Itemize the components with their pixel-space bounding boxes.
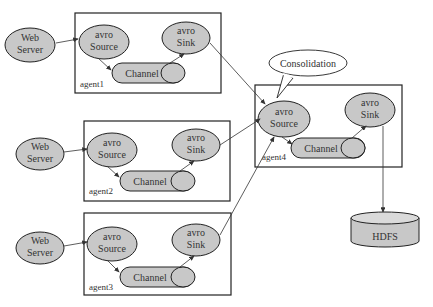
edge-sink3-source4 [220, 137, 274, 235]
agent1-channel: Channel [112, 63, 185, 83]
agent3-channel: Channel [120, 267, 195, 287]
svg-text:Source: Source [98, 149, 126, 160]
svg-text:Source: Source [90, 41, 118, 52]
edge-channel4-sink4 [352, 126, 366, 138]
svg-text:Server: Server [17, 44, 44, 55]
hdfs-storage: HDFS [351, 212, 419, 247]
edge-channel1-sink1 [170, 54, 184, 63]
agent4-channel: Channel [291, 138, 365, 158]
agent2-group: agent2 Web Server avro Source avro Sink … [16, 121, 230, 201]
svg-text:Channel: Channel [125, 68, 159, 79]
svg-text:Server: Server [27, 153, 54, 164]
svg-text:Web: Web [21, 32, 39, 43]
svg-text:Sink: Sink [177, 37, 195, 48]
agent2-source: avro Source [87, 133, 137, 167]
svg-text:avro: avro [187, 227, 205, 238]
hdfs-label: HDFS [372, 231, 398, 242]
agent2-channel: Channel [120, 171, 195, 191]
agent4-label: agent4 [262, 152, 286, 162]
agent3-web-server: Web Server [16, 232, 64, 264]
svg-text:Channel: Channel [133, 176, 167, 187]
svg-text:Web: Web [31, 235, 49, 246]
edge-source4-channel4 [282, 137, 292, 144]
agent3-source: avro Source [87, 227, 137, 261]
edge-sink1-source4 [210, 43, 265, 104]
agent1-source: avro Source [79, 25, 129, 59]
callout-label: Consolidation [280, 58, 336, 69]
agent1-label: agent1 [80, 79, 104, 89]
agent4-source: avro Source [258, 101, 310, 137]
consolidation-callout: Consolidation [269, 50, 347, 98]
edge-source3-channel3 [107, 260, 119, 272]
svg-text:Source: Source [98, 243, 126, 254]
edge-channel2-sink2 [180, 161, 194, 171]
flume-diagram: agent1 Web Server avro Source avro Sink … [0, 0, 433, 307]
agent2-web-server: Web Server [16, 138, 64, 170]
agent4-sink: avro Sink [345, 93, 395, 127]
edge-source2-channel2 [107, 166, 119, 177]
svg-text:avro: avro [187, 132, 205, 143]
svg-text:avro: avro [361, 97, 379, 108]
svg-text:Web: Web [31, 141, 49, 152]
svg-text:Channel: Channel [304, 143, 338, 154]
agent3-group: agent3 Web Server avro Source avro Sink … [16, 213, 231, 295]
edge-source1-channel1 [98, 58, 111, 70]
svg-text:avro: avro [103, 137, 121, 148]
agent1-group: agent1 Web Server avro Source avro Sink … [5, 13, 221, 93]
svg-text:Server: Server [27, 247, 54, 258]
agent2-sink: avro Sink [172, 129, 220, 161]
svg-text:avro: avro [275, 106, 293, 117]
svg-text:Channel: Channel [133, 272, 167, 283]
agent3-label: agent3 [89, 282, 113, 292]
edge-sink2-source4 [220, 119, 260, 145]
agent1-web-server: Web Server [5, 28, 55, 62]
svg-text:avro: avro [103, 231, 121, 242]
svg-text:avro: avro [95, 29, 113, 40]
svg-text:Sink: Sink [187, 239, 205, 250]
agent1-sink: avro Sink [162, 22, 210, 54]
agent3-sink: avro Sink [172, 224, 220, 256]
svg-text:Sink: Sink [187, 144, 205, 155]
svg-text:Sink: Sink [361, 109, 379, 120]
edge-channel3-sink3 [180, 256, 194, 267]
svg-text:Source: Source [270, 118, 298, 129]
agent2-label: agent2 [89, 186, 113, 196]
svg-text:avro: avro [177, 25, 195, 36]
